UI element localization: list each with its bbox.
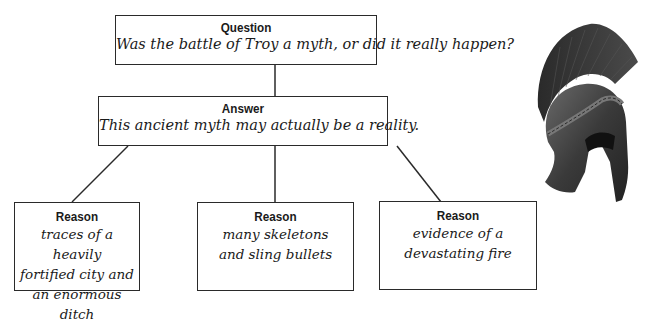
reason-box-3: Reason evidence of a devastating fire bbox=[379, 201, 537, 290]
answer-box: Answer This ancient myth may actually be… bbox=[98, 96, 388, 146]
reason-text-line: many skeletons bbox=[198, 224, 353, 244]
reason-text-line: an enormous ditch bbox=[15, 284, 139, 323]
answer-title: Answer bbox=[113, 101, 372, 116]
reason-text-line: evidence of a bbox=[380, 223, 536, 243]
reason-title: Reason bbox=[388, 208, 528, 223]
question-box: Question Was the battle of Troy a myth, … bbox=[115, 15, 377, 65]
reason-text-line: devastating fire bbox=[380, 243, 536, 263]
reason-box-1: Reason traces of a heavily fortified cit… bbox=[14, 202, 140, 291]
helmet-icon bbox=[530, 12, 640, 212]
answer-text: This ancient myth may actually be a real… bbox=[99, 117, 387, 133]
question-title: Question bbox=[129, 20, 363, 35]
reason-text-line: traces of a heavily bbox=[15, 224, 139, 264]
reason-title: Reason bbox=[206, 209, 346, 224]
reason-title: Reason bbox=[21, 209, 133, 224]
reason-text-line: fortified city and bbox=[15, 264, 139, 284]
question-text: Was the battle of Troy a myth, or did it… bbox=[116, 36, 376, 52]
reason-box-2: Reason many skeletons and sling bullets bbox=[197, 202, 354, 291]
reason-text-line: and sling bullets bbox=[198, 244, 353, 264]
